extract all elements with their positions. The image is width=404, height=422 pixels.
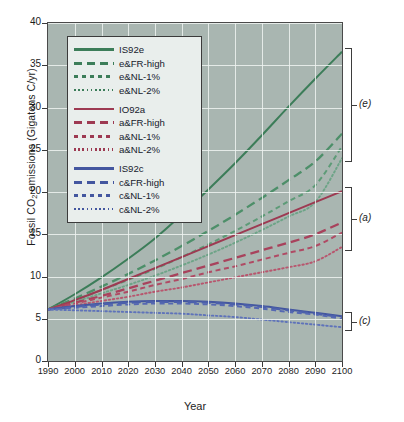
x-tick-mark (289, 362, 290, 367)
legend-item[interactable]: c&FR-high (74, 175, 196, 189)
y-tick-mark (42, 361, 47, 362)
x-tick-mark (262, 362, 263, 367)
legend-item[interactable]: c&NL-2% (74, 203, 196, 217)
bracket-a (345, 187, 352, 251)
legend-label: e&NL-1% (119, 71, 160, 82)
y-tick-mark (42, 277, 47, 278)
x-tick-mark (75, 362, 76, 367)
y-tick-label: 15 (0, 227, 41, 238)
gridline-vertical (315, 23, 316, 361)
gridline-horizontal (48, 319, 342, 320)
legend-item[interactable]: e&NL-2% (74, 84, 196, 98)
gridline-vertical (289, 23, 290, 361)
legend-swatch-icon (74, 85, 114, 96)
bracket-label-a: (a) (359, 212, 371, 223)
y-tick-label: 30 (0, 101, 41, 112)
x-tick-mark (342, 362, 343, 367)
legend-swatch-icon (74, 177, 114, 188)
x-tick-mark (155, 362, 156, 367)
x-tick-mark (182, 362, 183, 367)
legend-item[interactable]: IS92e (74, 43, 196, 57)
x-tick-label: 2100 (325, 366, 359, 376)
y-tick-mark (42, 319, 47, 320)
bracket-e (345, 48, 352, 163)
y-tick-mark (42, 192, 47, 193)
chart-figure: Fossil CO2 emissions (Gigatons C/yr) 051… (0, 0, 404, 422)
bracket-label-c: (c) (359, 315, 371, 326)
y-tick-mark (42, 23, 47, 24)
x-axis-title: Year (45, 400, 345, 412)
legend-label: a&FR-high (119, 117, 165, 128)
legend-item[interactable]: IS92c (74, 162, 196, 176)
gridline-horizontal (48, 277, 342, 278)
bracket-nub (352, 322, 357, 323)
legend-label: c&NL-1% (119, 190, 160, 201)
bracket-nub (352, 219, 357, 220)
legend-swatch-icon (74, 131, 114, 142)
legend-item[interactable]: a&NL-2% (74, 143, 196, 157)
legend-swatch-icon (74, 71, 114, 82)
legend-label: c&NL-2% (119, 204, 160, 215)
legend-item[interactable]: e&FR-high (74, 57, 196, 71)
legend-swatch-icon (74, 117, 114, 128)
bracket-label-e: (e) (359, 98, 371, 109)
gridline-horizontal (48, 234, 342, 235)
x-tick-mark (128, 362, 129, 367)
legend-item[interactable]: a&NL-1% (74, 130, 196, 144)
legend-swatch-icon (74, 190, 114, 201)
y-tick-mark (42, 65, 47, 66)
y-tick-label: 35 (0, 58, 41, 69)
gridline-vertical (262, 23, 263, 361)
y-tick-label: 10 (0, 270, 41, 281)
legend-label: e&FR-high (119, 58, 165, 69)
bracket-c (345, 312, 352, 331)
legend-swatch-icon (74, 104, 114, 115)
x-tick-mark (235, 362, 236, 367)
y-tick-mark (42, 108, 47, 109)
legend-label: e&NL-2% (119, 85, 160, 96)
legend-label: IS92c (119, 163, 144, 174)
y-tick-label: 40 (0, 16, 41, 27)
legend: IS92ee&FR-highe&NL-1%e&NL-2%IO92aa&FR-hi… (67, 36, 202, 223)
y-tick-mark (42, 150, 47, 151)
legend-swatch-icon (74, 163, 114, 174)
bracket-nub (352, 105, 357, 106)
x-tick-mark (48, 362, 49, 367)
legend-swatch-icon (74, 44, 114, 55)
legend-item[interactable]: a&FR-high (74, 116, 196, 130)
legend-label: IO92a (119, 104, 145, 115)
gridline-vertical (342, 23, 343, 361)
y-tick-label: 5 (0, 312, 41, 323)
legend-label: a&NL-1% (119, 131, 160, 142)
x-tick-mark (208, 362, 209, 367)
legend-swatch-icon (74, 204, 114, 215)
y-tick-label: 0 (0, 354, 41, 365)
y-tick-mark (42, 234, 47, 235)
legend-item[interactable]: e&NL-1% (74, 70, 196, 84)
legend-label: IS92e (119, 44, 144, 55)
y-tick-label: 25 (0, 143, 41, 154)
legend-swatch-icon (74, 58, 114, 69)
x-tick-mark (315, 362, 316, 367)
legend-swatch-icon (74, 144, 114, 155)
legend-item[interactable]: c&NL-1% (74, 189, 196, 203)
y-tick-label: 20 (0, 185, 41, 196)
y-axis-title: Fossil CO2 emissions (Gigatons C/yr) (25, 37, 39, 277)
legend-label: a&NL-2% (119, 144, 160, 155)
gridline-horizontal (48, 23, 342, 24)
x-tick-mark (102, 362, 103, 367)
legend-label: c&FR-high (119, 177, 164, 188)
legend-item[interactable]: IO92a (74, 102, 196, 116)
gridline-vertical (235, 23, 236, 361)
gridline-vertical (208, 23, 209, 361)
